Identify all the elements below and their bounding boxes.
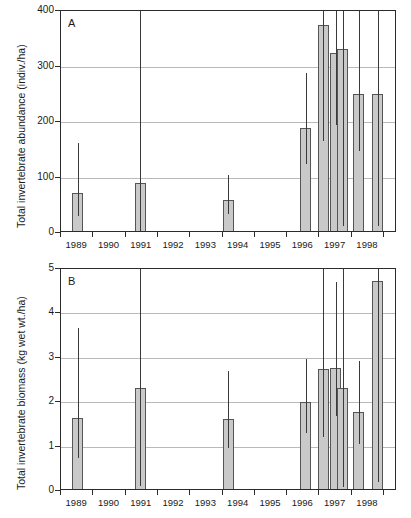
y-axis-tick-label: 100: [18, 172, 54, 182]
x-axis-tick-label: 1998: [347, 497, 387, 508]
x-axis-tick: [60, 490, 61, 495]
x-axis-tick: [92, 490, 93, 495]
x-axis-tick: [286, 232, 287, 237]
panel-b-y-axis-title: Total invertebrate biomass (kg wet wt./h…: [16, 296, 27, 490]
x-axis-tick: [125, 490, 126, 495]
y-axis-tick-label: 300: [18, 61, 54, 71]
x-axis-tick: [222, 490, 223, 495]
error-bar: [140, 11, 141, 231]
error-bar: [378, 269, 379, 482]
y-axis-tick-label: 5: [18, 263, 54, 273]
y-axis-tick: [55, 401, 60, 402]
x-axis-tick: [125, 232, 126, 237]
y-axis-tick: [55, 268, 60, 269]
error-bar: [140, 269, 141, 486]
error-bar: [306, 73, 307, 163]
panel-a-plot-frame: [60, 10, 396, 232]
panel-a-y-axis-title: Total invertebrate abundance (indiv./ha): [16, 44, 27, 228]
x-axis-tick: [189, 232, 190, 237]
x-axis-tick: [351, 232, 352, 237]
x-axis-tick: [254, 232, 255, 237]
y-axis-tick-label: 3: [18, 352, 54, 362]
x-axis-tick: [383, 232, 384, 237]
x-axis-tick: [157, 232, 158, 237]
error-bar: [78, 328, 79, 458]
y-axis-tick-label: 0: [18, 227, 54, 237]
error-bar: [359, 11, 360, 151]
y-axis-tick: [55, 177, 60, 178]
x-axis-tick: [286, 490, 287, 495]
y-axis-tick-label: 400: [18, 5, 54, 15]
panel-a: Total invertebrate abundance (indiv./ha)…: [0, 0, 411, 258]
panel-b: Total invertebrate biomass (kg wet wt./h…: [0, 258, 411, 518]
x-axis-tick: [92, 232, 93, 237]
panel-b-plot-area: [61, 269, 395, 489]
x-axis-tick: [318, 232, 319, 237]
x-axis-tick: [351, 490, 352, 495]
error-bar: [306, 359, 307, 434]
y-axis-tick-label: 2: [18, 396, 54, 406]
error-bar: [378, 11, 379, 226]
x-axis-tick: [383, 490, 384, 495]
y-axis-tick: [55, 312, 60, 313]
x-axis-tick: [189, 490, 190, 495]
panel-b-plot-frame: [60, 268, 396, 490]
y-axis-tick-label: 4: [18, 307, 54, 317]
x-axis-tick: [254, 490, 255, 495]
y-axis-tick: [55, 357, 60, 358]
error-bar: [323, 269, 324, 437]
panel-b-letter: B: [68, 276, 75, 287]
error-bar: [78, 143, 79, 217]
panel-a-plot-area: [61, 11, 395, 231]
y-axis-tick: [55, 66, 60, 67]
error-bar: [228, 175, 229, 214]
x-axis-tick: [60, 232, 61, 237]
error-bar: [343, 269, 344, 487]
gridline: [61, 313, 395, 314]
y-axis-tick-label: 0: [18, 485, 54, 495]
panel-a-letter: A: [68, 18, 75, 29]
x-axis-tick-label: 1998: [347, 239, 387, 250]
y-axis-tick-label: 200: [18, 116, 54, 126]
error-bar: [323, 11, 324, 141]
error-bar: [228, 371, 229, 448]
figure-invertebrate-abundance-biomass: Total invertebrate abundance (indiv./ha)…: [0, 0, 411, 518]
error-bar: [343, 11, 344, 226]
x-axis-tick: [222, 232, 223, 237]
error-bar: [359, 361, 360, 444]
y-axis-tick: [55, 446, 60, 447]
x-axis-tick: [318, 490, 319, 495]
y-axis-tick: [55, 121, 60, 122]
x-axis-tick: [157, 490, 158, 495]
y-axis-tick: [55, 10, 60, 11]
gridline: [61, 358, 395, 359]
y-axis-tick-label: 1: [18, 441, 54, 451]
